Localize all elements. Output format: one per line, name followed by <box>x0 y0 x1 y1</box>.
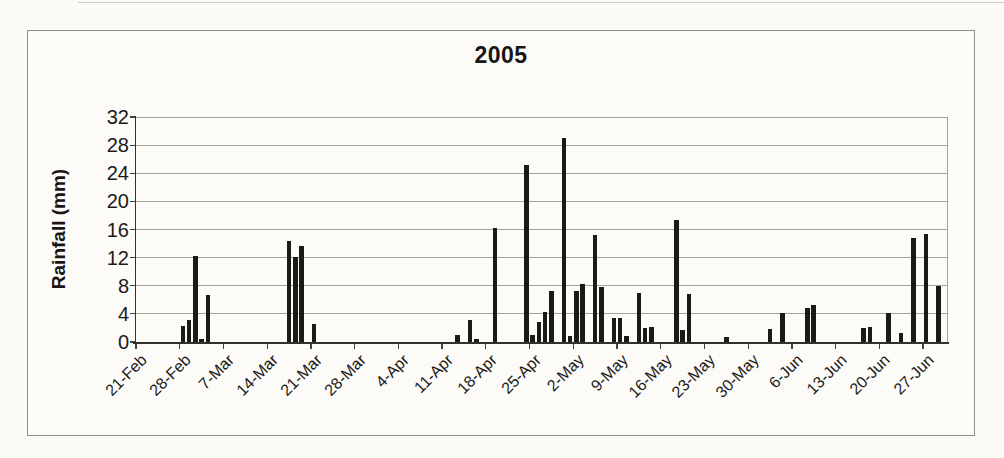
bar <box>493 228 498 342</box>
bar <box>312 324 317 342</box>
bar <box>537 322 542 342</box>
x-tick-mark <box>485 344 486 349</box>
bar <box>206 295 211 342</box>
x-tick-mark <box>223 344 224 349</box>
bar <box>193 256 198 343</box>
bar <box>474 339 479 343</box>
bar <box>924 234 929 342</box>
bar <box>861 328 866 342</box>
bar <box>543 312 548 342</box>
bar <box>687 294 692 342</box>
bar <box>811 305 816 342</box>
x-tick-mark <box>529 344 530 349</box>
y-tick-label: 32 <box>85 106 129 128</box>
y-tick-label: 16 <box>85 219 129 241</box>
bar <box>899 333 904 342</box>
x-tick-mark <box>791 344 792 349</box>
x-tick-mark <box>660 344 661 349</box>
bar <box>468 320 473 343</box>
x-tick-mark <box>441 344 442 349</box>
gridline <box>136 229 948 230</box>
bar <box>287 241 292 342</box>
x-tick-mark <box>835 344 836 349</box>
x-tick-mark <box>354 344 355 349</box>
plot-area: 04812162024283221-Feb28-Feb7-Mar14-Mar21… <box>136 117 948 342</box>
y-tick-label: 0 <box>85 331 129 353</box>
bar <box>593 235 598 342</box>
y-axis-line <box>135 116 137 343</box>
x-tick-mark <box>310 344 311 349</box>
gridline <box>136 173 948 174</box>
x-tick-mark <box>179 344 180 349</box>
y-tick-label: 24 <box>85 162 129 184</box>
x-tick-mark <box>135 344 136 349</box>
bar <box>643 328 648 342</box>
bar <box>580 284 585 342</box>
gridline <box>136 117 948 118</box>
x-tick-mark <box>398 344 399 349</box>
bar <box>199 339 204 343</box>
bar <box>649 327 654 342</box>
y-tick-label: 20 <box>85 190 129 212</box>
x-tick-mark <box>922 344 923 349</box>
y-tick-label: 28 <box>85 134 129 156</box>
bar <box>455 335 460 342</box>
scan-artifact-line <box>78 2 1004 3</box>
y-tick-label: 8 <box>85 275 129 297</box>
bar <box>549 291 554 342</box>
x-tick-mark <box>748 344 749 349</box>
bar <box>680 330 685 342</box>
bar <box>637 293 642 342</box>
y-tick-label: 4 <box>85 303 129 325</box>
bar <box>911 238 916 342</box>
bar <box>886 313 891 343</box>
bar <box>868 327 873 343</box>
bar <box>612 318 617 342</box>
bar <box>568 336 573 342</box>
chart-title: 2005 <box>27 42 975 69</box>
bar <box>768 329 773 342</box>
bar <box>780 313 785 342</box>
x-tick-mark <box>616 344 617 349</box>
bar <box>624 336 629 342</box>
y-tick-label: 12 <box>85 247 129 269</box>
gridline <box>136 145 948 146</box>
bar <box>524 165 529 342</box>
gridline <box>136 257 948 258</box>
x-axis-line <box>133 342 949 344</box>
bar <box>299 246 304 342</box>
bar <box>724 337 729 342</box>
bar <box>293 257 298 342</box>
bar <box>599 287 604 343</box>
x-tick-mark <box>573 344 574 349</box>
bar <box>574 291 579 342</box>
x-tick-mark <box>879 344 880 349</box>
bar <box>618 318 623 342</box>
gridline <box>136 201 948 202</box>
bar <box>805 308 810 343</box>
bar <box>181 326 186 342</box>
bar <box>562 138 567 342</box>
bar <box>187 320 192 343</box>
bar <box>936 286 941 342</box>
plot-right-border <box>947 117 948 342</box>
y-axis-title-text: Rainfall (mm) <box>48 169 70 289</box>
bar <box>674 220 679 342</box>
gridline <box>136 285 948 286</box>
bar <box>530 335 535 342</box>
x-tick-mark <box>267 344 268 349</box>
scanned-figure: 2005 Rainfall (mm) 04812162024283221-Feb… <box>0 0 1004 458</box>
x-tick-mark <box>704 344 705 349</box>
